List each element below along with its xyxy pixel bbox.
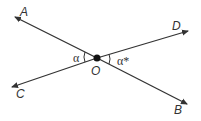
point-o xyxy=(94,55,101,62)
line-cd xyxy=(97,31,188,58)
label-c: C xyxy=(16,87,25,101)
angle-arc-left xyxy=(84,52,85,62)
angle-arc-right xyxy=(109,54,110,64)
label-d: D xyxy=(172,19,181,33)
line-ab xyxy=(97,58,187,104)
line-ab xyxy=(15,17,97,58)
line-cd xyxy=(12,58,97,87)
label-b: B xyxy=(174,103,182,117)
label-a: A xyxy=(19,5,28,19)
label-o: O xyxy=(91,64,100,78)
label-alpha-star: α* xyxy=(117,54,129,68)
intersecting-lines-diagram: A D C B O α α* xyxy=(0,0,201,121)
label-alpha: α xyxy=(73,51,80,65)
